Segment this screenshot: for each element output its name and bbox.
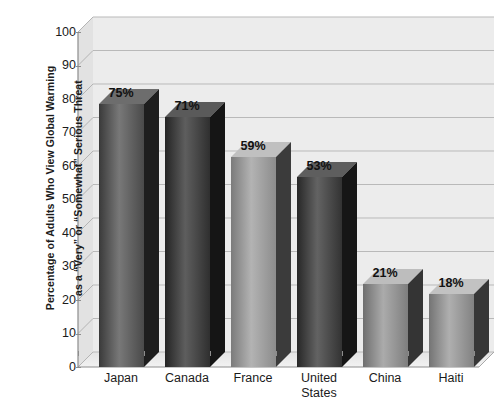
- x-tickmark-6: [474, 351, 475, 356]
- bar-united-states[interactable]: [297, 162, 357, 367]
- bar-front-face: [297, 177, 342, 367]
- bar-chart: 75% 71% 59% 53% 21% 18% 100 90 80 70 60 …: [0, 0, 494, 406]
- bar-side-face: [276, 142, 291, 367]
- bar-side-face: [474, 279, 489, 367]
- bar-front-face: [429, 294, 474, 367]
- y-tickmark-0: [76, 367, 81, 368]
- bar-value-france: 59%: [223, 139, 283, 153]
- bar-japan[interactable]: [99, 89, 159, 367]
- bar-front-face: [231, 157, 276, 367]
- bar-side-face: [342, 162, 357, 367]
- bar-front-face: [165, 117, 210, 367]
- x-label-united-states-line2: States: [301, 386, 336, 400]
- x-tickmark-1: [144, 351, 145, 356]
- x-tickmark-2: [210, 351, 211, 356]
- bar-value-haiti: 18%: [421, 276, 481, 290]
- x-tickmark-5: [408, 351, 409, 356]
- bar-front-face: [99, 104, 144, 367]
- bar-value-united-states: 53%: [289, 159, 349, 173]
- bar-value-china: 21%: [355, 266, 415, 280]
- y-axis-title-line1: Percentage of Adults Who View Global War…: [44, 66, 56, 310]
- bar-france[interactable]: [231, 142, 291, 367]
- x-tickmark-4: [342, 351, 343, 356]
- y-axis-title-line2: as a “Very” or “Somewhat” Serious Threat: [72, 80, 84, 296]
- bar-china[interactable]: [363, 269, 423, 367]
- bar-value-japan: 75%: [91, 86, 151, 100]
- bar-canada[interactable]: [165, 102, 225, 367]
- x-label-haiti: Haiti: [405, 371, 494, 386]
- bar-front-face: [363, 284, 408, 367]
- y-tick-0: 0: [46, 361, 76, 373]
- bar-haiti[interactable]: [429, 279, 489, 367]
- y-axis-title: Percentage of Adults Who View Global War…: [29, 23, 85, 353]
- x-label-united-states-line1: United: [301, 371, 337, 385]
- bar-value-canada: 71%: [157, 99, 217, 113]
- x-tickmark-3: [276, 351, 277, 356]
- bar-side-face: [144, 89, 159, 367]
